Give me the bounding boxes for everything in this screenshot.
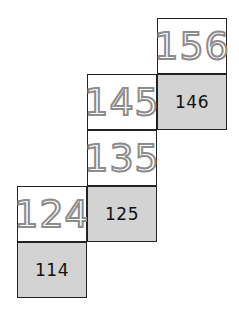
cell-124: 124 (17, 186, 87, 242)
cell-156: 156 (157, 18, 227, 74)
tracing-number: 124 (14, 192, 90, 236)
given-number: 146 (175, 92, 209, 112)
tracing-number: 145 (84, 80, 160, 124)
cell-125: 125 (87, 186, 157, 242)
tracing-number: 135 (84, 136, 160, 180)
given-number: 125 (105, 204, 139, 224)
cell-146: 146 (157, 74, 227, 130)
cell-114: 114 (17, 242, 87, 298)
given-number: 114 (35, 260, 69, 280)
tracing-number: 156 (154, 24, 230, 68)
cell-145: 145 (87, 74, 157, 130)
cell-135: 135 (87, 130, 157, 186)
